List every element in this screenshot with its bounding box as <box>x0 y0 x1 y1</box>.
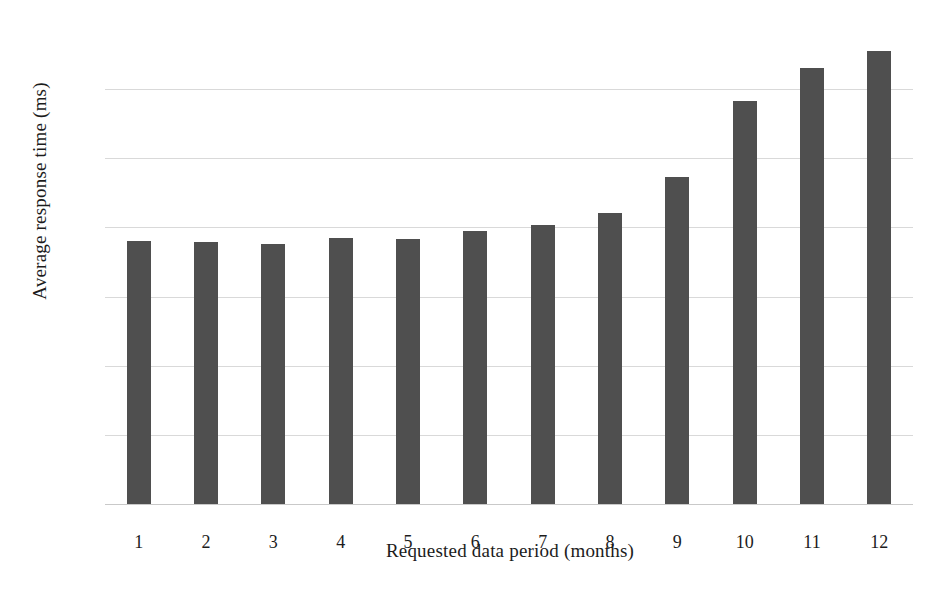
bars-layer <box>105 20 913 504</box>
bar-slot <box>172 20 239 504</box>
bar-slot <box>846 20 913 504</box>
bar-slot <box>778 20 845 504</box>
bar-slot <box>105 20 172 504</box>
bar[interactable] <box>463 231 487 504</box>
plot-area: 02004006008001,0001,200 123456789101112 <box>105 20 913 504</box>
bar[interactable] <box>867 51 891 504</box>
bar[interactable] <box>598 213 622 504</box>
bar-slot <box>374 20 441 504</box>
bar-slot <box>240 20 307 504</box>
bar-slot <box>644 20 711 504</box>
bar-slot <box>509 20 576 504</box>
bar[interactable] <box>329 238 353 504</box>
bar[interactable] <box>127 241 151 504</box>
bar[interactable] <box>396 239 420 504</box>
bar[interactable] <box>194 242 218 504</box>
x-axis-title: Requested data period (months) <box>105 540 915 562</box>
bar-slot <box>711 20 778 504</box>
bar[interactable] <box>665 177 689 504</box>
bar[interactable] <box>733 101 757 504</box>
bar-slot <box>307 20 374 504</box>
bar[interactable] <box>800 68 824 504</box>
bar[interactable] <box>531 225 555 504</box>
bar-chart-figure: Average response time (ms) 0200400600800… <box>0 0 941 595</box>
y-axis-title: Average response time (ms) <box>29 21 51 361</box>
gridline-0 <box>105 504 913 505</box>
bar-slot <box>442 20 509 504</box>
bar-slot <box>576 20 643 504</box>
bar[interactable] <box>261 244 285 504</box>
